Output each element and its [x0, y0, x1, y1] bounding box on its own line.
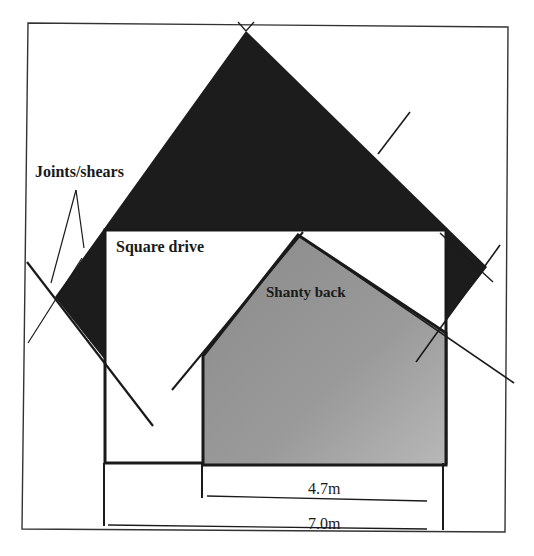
inner-width-dimension: 4.7m — [308, 480, 341, 497]
mine-cross-section-diagram: Joints/shears Square drive Shanty back 4… — [0, 0, 534, 556]
joints-shears-label: Joints/shears — [35, 163, 124, 180]
square-drive-label: Square drive — [116, 238, 204, 256]
shanty-back-label: Shanty back — [266, 284, 346, 300]
outer-width-dimension: 7.0m — [308, 515, 341, 532]
dimension-lines — [104, 463, 443, 530]
